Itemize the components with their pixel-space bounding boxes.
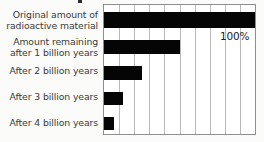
category-label-column: Original amount of radioactive material … <box>0 0 101 142</box>
category-label-2: After 2 billion years <box>10 65 98 76</box>
category-label-0-line-0: Original amount of <box>6 9 98 20</box>
bars-layer <box>104 5 255 134</box>
chart-screenshot: Original amount of radioactive material … <box>0 0 264 142</box>
value-annotation-100-percent: 100% <box>220 31 249 42</box>
plot-area: 100% <box>103 4 256 135</box>
category-label-1-line-1: after 1 billion years <box>10 47 98 58</box>
category-label-4: After 4 billion years <box>10 117 98 128</box>
bar-4 <box>104 117 114 130</box>
bar-0 <box>104 12 255 28</box>
category-label-0-line-1: radioactive material <box>6 20 98 31</box>
category-label-0: Original amount of radioactive material <box>6 9 98 32</box>
category-label-2-line-0: After 2 billion years <box>10 65 98 76</box>
category-label-1: Amount remaining after 1 billion years <box>10 36 98 59</box>
category-label-4-line-0: After 4 billion years <box>10 117 98 128</box>
category-label-3: After 3 billion years <box>10 91 98 102</box>
bar-3 <box>104 92 123 105</box>
category-label-3-line-0: After 3 billion years <box>10 91 98 102</box>
category-label-1-line-0: Amount remaining <box>10 36 98 47</box>
bar-2 <box>104 66 142 80</box>
bar-1 <box>104 40 180 54</box>
